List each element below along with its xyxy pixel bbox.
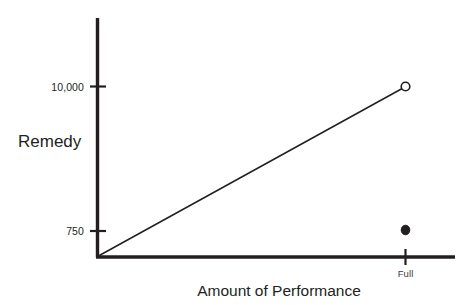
chart-background	[0, 0, 473, 305]
reliance-filled-dot-marker	[401, 225, 410, 235]
x-axis-title: Amount of Performance	[197, 282, 361, 299]
y-tick-label-750: 750	[66, 225, 84, 237]
y-axis-title: Remedy	[18, 132, 82, 151]
x-tick-label-full: Full	[398, 268, 414, 279]
y-tick-label-10000: 10,000	[51, 81, 84, 93]
chart-canvas: 10,000 750 Full Remedy Amount of Perform…	[0, 0, 473, 305]
endpoint-open-circle-marker	[401, 82, 410, 91]
chart-figure: 10,000 750 Full Remedy Amount of Perform…	[0, 0, 473, 305]
